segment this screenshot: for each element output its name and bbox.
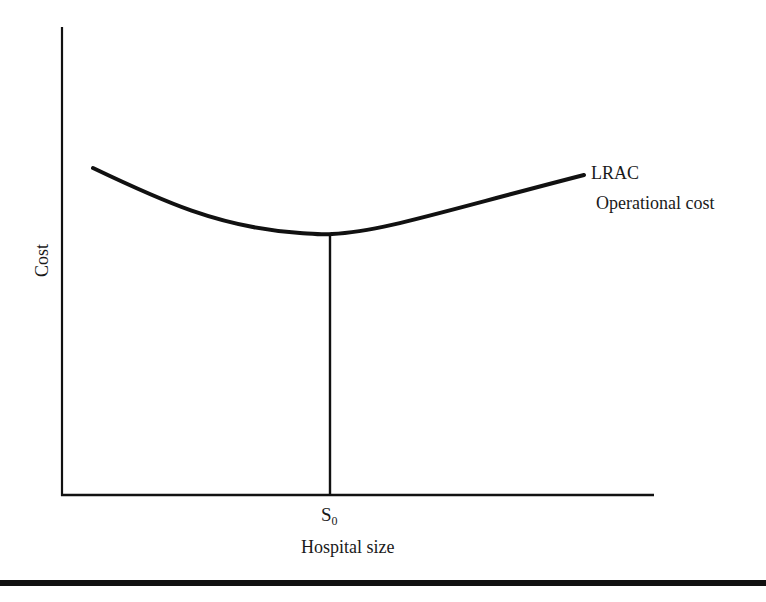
y-axis-label: Cost — [32, 241, 53, 281]
curve-label-operational-cost: Operational cost — [596, 193, 714, 214]
bottom-rule-divider — [0, 580, 766, 586]
lrac-chart: Cost S0 Hospital size LRAC Operational c… — [0, 0, 766, 602]
s0-label-subscript: 0 — [332, 514, 338, 528]
chart-canvas — [0, 0, 766, 602]
x-axis-label: Hospital size — [301, 537, 394, 558]
s0-label: S0 — [321, 504, 338, 529]
lrac-curve — [93, 168, 584, 234]
curve-label-lrac: LRAC — [591, 163, 639, 184]
s0-label-main: S — [321, 504, 332, 525]
